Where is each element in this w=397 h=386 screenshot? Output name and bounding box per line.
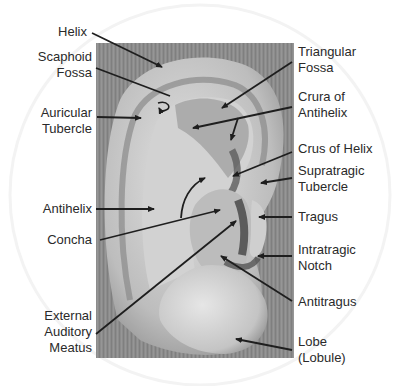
label-triangular-fossa: Triangular Fossa (298, 44, 356, 76)
label-antitragus: Antitragus (298, 294, 357, 310)
label-tragus: Tragus (298, 209, 338, 225)
label-crus-of-helix: Crus of Helix (298, 141, 372, 157)
label-helix: Helix (58, 24, 87, 40)
label-concha: Concha (47, 232, 92, 248)
ear-anatomy-diagram: Helix Scaphoid Fossa Auricular Tubercle … (0, 0, 397, 386)
label-crura-of-antihelix: Crura of Antihelix (298, 89, 347, 121)
label-supratragic-tubercle: Supratragic Tubercle (298, 163, 364, 195)
label-lobe: Lobe (Lobule) (298, 334, 346, 366)
label-antihelix: Antihelix (43, 201, 92, 217)
label-scaphoid-fossa: Scaphoid Fossa (38, 49, 92, 81)
arrow-auricular-tubercle (97, 117, 141, 118)
label-intratragic-notch: Intratragic Notch (298, 242, 356, 274)
label-external-auditory-meatus: External Auditory Meatus (44, 308, 92, 356)
label-auricular-tubercle: Auricular Tubercle (41, 105, 92, 137)
